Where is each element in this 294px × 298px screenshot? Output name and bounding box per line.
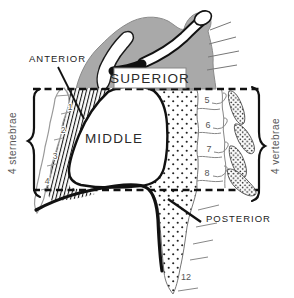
diagram-canvas: SUPERIOR ANTERIOR MIDDLE POSTERIOR 1 2 3… — [0, 0, 294, 298]
sternebra-number-3: 3 — [53, 151, 58, 161]
transverse-process-hook-1 — [212, 93, 226, 104]
vertebra-number-8: 8 — [204, 168, 209, 178]
vertebra-number-6: 6 — [205, 120, 210, 130]
vertebra-number-12: 12 — [181, 272, 191, 282]
vertebrae-side-label: 4 vertebrae — [270, 118, 281, 174]
rib-cross-sections — [227, 91, 256, 196]
transverse-process-hook-3 — [214, 142, 228, 153]
vertebral-column-outline — [197, 88, 228, 188]
sternebra-number-2: 2 — [61, 125, 66, 135]
posterior-label: POSTERIOR — [206, 213, 271, 224]
middle-label: MIDDLE — [85, 131, 143, 146]
superior-label: SUPERIOR — [110, 71, 190, 86]
sternebra-number-1: 1 — [68, 102, 73, 112]
transverse-process-hook-2 — [213, 118, 227, 129]
sternebrae-side-label: 4 sternebrae — [7, 112, 18, 174]
anterior-label: ANTERIOR — [29, 53, 86, 64]
vertebra-number-7: 7 — [206, 144, 211, 154]
sternebra-number-4: 4 — [45, 176, 50, 186]
vertebra-number-5: 5 — [204, 95, 209, 105]
mediastinum-diagram: SUPERIOR ANTERIOR MIDDLE POSTERIOR 1 2 3… — [0, 0, 294, 298]
